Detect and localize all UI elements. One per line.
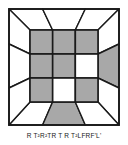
facelet-u4 [30,54,53,78]
facelet-u8 [53,78,76,102]
facelet-u1 [30,30,53,54]
cube-diagram [0,0,128,130]
algorithm-caption: R T²R²TR T R T²LFRF'L' [0,131,128,140]
facelet-u9 [75,78,98,102]
facelet-u2 [53,30,76,54]
facelet-u6 [75,54,98,78]
facelet-u7 [30,78,53,102]
facelet-u3 [75,30,98,54]
facelet-u5 [53,54,76,78]
top-face-group [30,30,98,102]
cube-algorithm-figure: R T²R²TR T R T²LFRF'L' [0,0,128,145]
